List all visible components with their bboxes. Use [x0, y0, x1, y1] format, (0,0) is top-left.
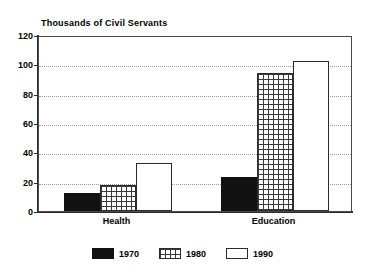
- bar-health-1990: [136, 163, 172, 211]
- y-axis-tick-mark: [34, 212, 38, 213]
- y-axis-tick-label: 100: [0, 60, 33, 70]
- x-axis-category-label: Health: [103, 216, 131, 226]
- y-axis-tick-mark: [34, 183, 38, 184]
- legend-swatch-icon: [92, 248, 114, 259]
- chart-legend: 197019801990: [0, 248, 365, 259]
- bar-education-1980: [257, 73, 293, 211]
- y-axis-tick-mark: [34, 124, 38, 125]
- y-axis-tick-mark: [34, 36, 38, 37]
- legend-label: 1990: [253, 249, 273, 259]
- legend-swatch-icon: [159, 248, 181, 259]
- y-axis-tick-label: 120: [0, 31, 33, 41]
- x-axis-category-label: Education: [252, 216, 296, 226]
- legend-swatch-icon: [226, 248, 248, 259]
- legend-label: 1970: [119, 249, 139, 259]
- legend-item-1990[interactable]: 1990: [226, 248, 273, 259]
- bar-health-1970: [64, 193, 100, 211]
- y-axis-tick-label: 40: [0, 148, 33, 158]
- bar-education-1990: [293, 61, 329, 211]
- y-axis-tick-label: 80: [0, 90, 33, 100]
- y-axis-tick-mark: [34, 65, 38, 66]
- y-axis-tick-label: 60: [0, 119, 33, 129]
- bar-education-1970: [221, 177, 257, 211]
- y-axis-tick-mark: [34, 153, 38, 154]
- plot-area: [38, 36, 352, 212]
- y-axis-tick-label: 20: [0, 178, 33, 188]
- chart-title: Thousands of Civil Servants: [41, 18, 167, 28]
- y-axis-tick-mark: [34, 95, 38, 96]
- bar-health-1980: [100, 185, 136, 211]
- legend-item-1980[interactable]: 1980: [159, 248, 206, 259]
- bar-chart: Thousands of Civil Servants 020406080100…: [0, 0, 365, 274]
- legend-item-1970[interactable]: 1970: [92, 248, 139, 259]
- legend-label: 1980: [186, 249, 206, 259]
- y-axis-tick-label: 0: [0, 207, 33, 217]
